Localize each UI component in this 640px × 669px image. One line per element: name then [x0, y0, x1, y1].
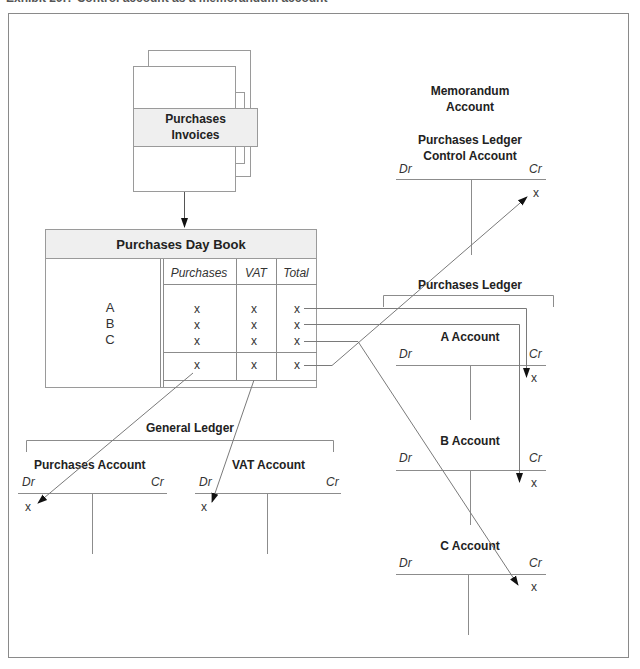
row-c-posting-arrow — [304, 342, 518, 586]
purchases-to-general-arrow — [38, 373, 193, 503]
total-to-control-arrow — [304, 197, 527, 366]
row-a-posting-arrow — [304, 309, 527, 378]
connector-lines — [0, 0, 640, 669]
row-b-posting-arrow — [304, 325, 520, 483]
